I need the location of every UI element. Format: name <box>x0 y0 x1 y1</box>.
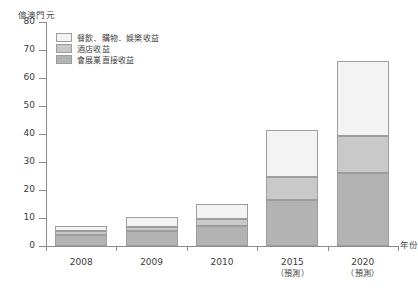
legend-item: 會展業直接收益 <box>56 54 159 65</box>
y-tick-label: 30 <box>24 156 35 167</box>
y-tick-label: 50 <box>24 100 35 111</box>
x-tick-label-note: （預測） <box>318 268 408 280</box>
chart-legend: 餐飲．購物．娛樂收益酒店收益會展業直接收益 <box>56 32 159 65</box>
x-tick-label: 2020（預測） <box>318 256 408 280</box>
bar-segment <box>337 61 389 136</box>
legend-label: 酒店收益 <box>77 43 110 54</box>
bar-2015 <box>266 22 318 246</box>
y-tick: 10 <box>39 218 47 219</box>
bar-segment <box>126 227 178 231</box>
x-tick <box>398 246 399 251</box>
y-tick: 50 <box>39 106 47 107</box>
x-axis-unit-label: 年份 <box>400 238 418 250</box>
y-tick: 30 <box>39 162 47 163</box>
legend-swatch <box>56 55 72 64</box>
bar-segment <box>266 177 318 200</box>
y-tick: 70 <box>39 50 47 51</box>
y-tick: 80 <box>39 22 47 23</box>
y-tick: 60 <box>39 78 47 79</box>
x-tick-label-year: 2015 <box>281 257 304 267</box>
x-tick-label-year: 2010 <box>211 257 234 267</box>
x-tick <box>116 246 117 251</box>
bar-segment <box>196 219 248 226</box>
bar-segment <box>266 200 318 246</box>
bar-segment <box>196 226 248 246</box>
bar-segment <box>337 136 389 173</box>
bar-2020 <box>337 22 389 246</box>
legend-item: 酒店收益 <box>56 43 159 54</box>
x-tick <box>328 246 329 251</box>
x-tick <box>46 246 47 251</box>
y-tick-label: 60 <box>24 72 35 83</box>
y-tick-label: 80 <box>24 16 35 27</box>
y-tick-label: 70 <box>24 44 35 55</box>
bar-segment <box>337 173 389 246</box>
legend-swatch <box>56 33 72 42</box>
bar-segment <box>126 217 178 227</box>
legend-swatch <box>56 44 72 53</box>
bar-segment <box>266 130 318 177</box>
bar-2010 <box>196 22 248 246</box>
x-axis-line <box>46 246 398 247</box>
y-tick-label: 40 <box>24 128 35 139</box>
bar-segment <box>55 226 107 231</box>
bar-segment <box>126 231 178 246</box>
x-tick <box>187 246 188 251</box>
legend-item: 餐飲．購物．娛樂收益 <box>56 32 159 43</box>
bar-segment <box>55 231 107 234</box>
y-tick: 20 <box>39 190 47 191</box>
y-tick: 40 <box>39 134 47 135</box>
x-tick-label-year: 2020 <box>351 257 374 267</box>
bar-segment <box>55 235 107 246</box>
legend-label: 會展業直接收益 <box>77 54 134 65</box>
x-tick-label-year: 2009 <box>140 257 163 267</box>
x-tick <box>257 246 258 251</box>
bar-segment <box>196 204 248 219</box>
y-tick-label: 10 <box>24 212 35 223</box>
x-tick-label-year: 2008 <box>70 257 93 267</box>
legend-label: 餐飲．購物．娛樂收益 <box>77 32 159 43</box>
y-tick-label: 0 <box>29 240 35 251</box>
y-tick-label: 20 <box>24 184 35 195</box>
